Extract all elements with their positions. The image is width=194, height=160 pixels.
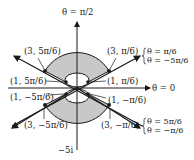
label-theta-pi-over-2: θ = π/2 <box>62 8 94 17</box>
label-ray-upper-1: θ = π/6 <box>147 48 177 56</box>
point-label-1-neg5pi6: (1, −5π/6) <box>10 93 54 102</box>
point-label-3-pi6: (3, π/6) <box>107 47 138 56</box>
point-label-1-5pi6: (1, 5π/6) <box>10 77 47 86</box>
label-ray-lower-1: θ = 5π/6 <box>147 118 182 126</box>
point-label-1-negpi6: (1, −π/6) <box>108 96 146 105</box>
label-theta-zero: θ = 0 <box>152 84 175 93</box>
label-minus-5i: −5i <box>58 146 73 155</box>
point-label-3-5pi6: (3, 5π/6) <box>24 47 61 56</box>
point-label-1-pi6: (1, π/6) <box>107 77 138 86</box>
point-label-3-negpi6: (3, −π/6) <box>101 121 139 130</box>
point-label-3-neg5pi6: (3, −5π/6) <box>24 121 68 130</box>
label-ray-lower-2: θ = −π/6 <box>147 127 183 135</box>
label-ray-upper-2: θ = −5π/6 <box>147 57 188 65</box>
